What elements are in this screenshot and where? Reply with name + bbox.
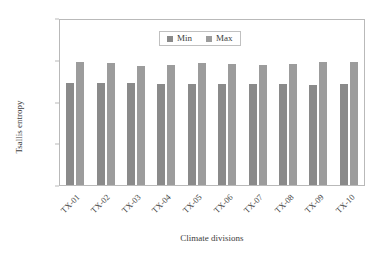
x-axis-tick-label: TX-02 (89, 192, 112, 215)
bar-min (340, 84, 348, 185)
y-axis-tick-mark (55, 19, 59, 20)
bar-group (309, 20, 327, 185)
legend-swatch-icon (167, 36, 173, 42)
chart-legend: MinMax (159, 31, 241, 46)
bar-min (309, 85, 317, 185)
legend-swatch-icon (206, 36, 212, 42)
bar-max (289, 64, 297, 185)
x-axis-tick-slot: TX-08 (273, 188, 304, 232)
x-axis-tick-label: TX-03 (119, 192, 142, 215)
bar-min (127, 83, 135, 185)
bar-max (259, 65, 267, 185)
y-axis-title: Tsallis entropy (14, 62, 24, 192)
legend-item-max: Max (206, 34, 233, 43)
x-axis-tick-slot: TX-02 (90, 188, 121, 232)
bar-min (218, 84, 226, 185)
bar-group (249, 20, 267, 185)
x-axis-tick-slot: TX-01 (59, 188, 90, 232)
y-axis-tick-mark (55, 102, 59, 103)
bar-max (350, 62, 358, 185)
bar-min (97, 83, 105, 185)
bar-group (97, 20, 115, 185)
x-axis-ticks: TX-01TX-02TX-03TX-04TX-05TX-06TX-07TX-08… (59, 188, 365, 232)
x-axis-tick-slot: TX-03 (120, 188, 151, 232)
y-axis-tick-mark (55, 186, 59, 187)
x-axis-tick-label: TX-01 (58, 192, 81, 215)
bar-max (167, 65, 175, 185)
x-axis-tick-label: TX-10 (334, 192, 357, 215)
x-axis-title: Climate divisions (59, 233, 365, 243)
bar-max (76, 62, 84, 185)
bar-group (66, 20, 84, 185)
bar-min (66, 83, 74, 185)
x-axis-tick-slot: TX-09 (304, 188, 335, 232)
bar-max (107, 63, 115, 185)
x-axis-tick-label: TX-04 (150, 192, 173, 215)
bar-max (228, 64, 236, 185)
y-axis-tick-mark (55, 144, 59, 145)
x-axis-tick-label: TX-09 (303, 192, 326, 215)
bar-max (137, 66, 145, 185)
x-axis-tick-slot: TX-04 (151, 188, 182, 232)
x-axis-tick-label: TX-07 (242, 192, 265, 215)
legend-label: Min (177, 34, 192, 43)
x-axis-tick-label: TX-08 (272, 192, 295, 215)
bar-min (279, 84, 287, 185)
bar-min (249, 84, 257, 185)
bar-min (188, 84, 196, 185)
bar-group (340, 20, 358, 185)
bar-group (127, 20, 145, 185)
x-axis-tick-label: TX-06 (211, 192, 234, 215)
x-axis-tick-slot: TX-06 (212, 188, 243, 232)
x-axis-tick-slot: TX-10 (334, 188, 365, 232)
x-axis-tick-label: TX-05 (181, 192, 204, 215)
bar-group (279, 20, 297, 185)
legend-label: Max (216, 34, 233, 43)
x-axis-tick-slot: TX-07 (243, 188, 274, 232)
y-axis-tick-mark (55, 60, 59, 61)
bar-max (319, 62, 327, 185)
bar-min (157, 84, 165, 185)
bar-max (198, 63, 206, 185)
x-axis-tick-slot: TX-05 (181, 188, 212, 232)
chart-figure: Tsallis entropy 0.000.200.400.600.80 Min… (0, 0, 385, 254)
legend-item-min: Min (167, 34, 192, 43)
